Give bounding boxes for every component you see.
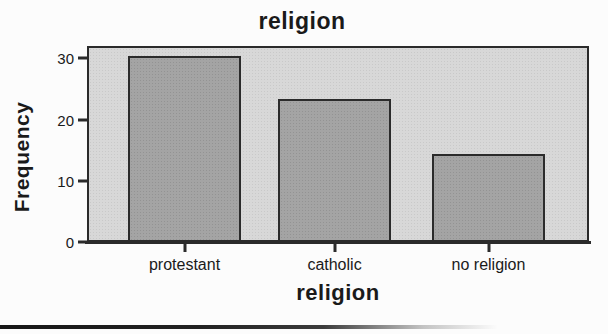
y-tick-mark-20 (78, 118, 87, 121)
chart-title: religion (0, 8, 604, 35)
page-scan-rule (0, 325, 498, 329)
x-tick-mark-no-religion (487, 244, 490, 252)
bar-no-religion (432, 154, 545, 240)
x-tick-label-protestant: protestant (149, 256, 220, 274)
bar-catholic (278, 99, 391, 240)
x-tick-mark-catholic (333, 244, 336, 252)
x-tick-label-no-religion: no religion (452, 256, 526, 274)
x-axis-title: religion (87, 280, 589, 306)
x-axis: protestantcatholicno religion (87, 244, 589, 284)
x-tick-mark-protestant (183, 244, 186, 252)
y-axis: 0102030 (0, 46, 87, 242)
y-tick-label-30: 30 (57, 51, 74, 66)
plot-area (87, 46, 589, 242)
bar-protestant (128, 56, 241, 240)
y-tick-mark-10 (78, 179, 87, 182)
y-tick-label-10: 10 (57, 173, 74, 188)
y-tick-label-20: 20 (57, 112, 74, 127)
x-tick-label-catholic: catholic (307, 256, 361, 274)
y-tick-mark-30 (78, 57, 87, 60)
y-tick-label-0: 0 (66, 235, 74, 250)
